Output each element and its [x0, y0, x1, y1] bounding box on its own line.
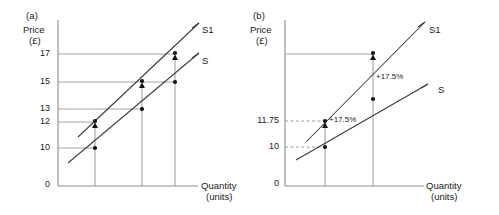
panel-b-leader-s: [421, 84, 428, 88]
panel-b-marker-s1-q2: [370, 51, 376, 60]
panel-b-marker-s-q2: [371, 97, 375, 101]
panel-a-marker-s-q2: [140, 107, 144, 111]
panel-a-curve-s: [68, 53, 199, 163]
panel-a-marker-s-q3: [173, 80, 177, 84]
panel-a: (a) Price (£) 17 15 13 12 10 0 S1 S Quan…: [0, 0, 250, 215]
panel-a-leader-s1: [192, 23, 199, 28]
panel-a-marker-s1-q2: [139, 79, 145, 88]
panel-a-plot: [0, 0, 250, 215]
panel-a-marker-s-q1: [93, 146, 97, 150]
panel-a-leader-s: [192, 53, 199, 58]
panel-b-curve-s: [296, 84, 428, 160]
panel-a-marker-s1-q3: [172, 51, 178, 60]
panel-b-curve-s1: [306, 22, 425, 142]
panel-b-plot: [228, 0, 499, 215]
supply-curve-figure: (a) Price (£) 17 15 13 12 10 0 S1 S Quan…: [0, 0, 499, 215]
panel-b: (b) Price (£) 11.75 10 0 S1 S +17.5% +17…: [228, 0, 499, 215]
panel-b-marker-s-q1: [323, 145, 327, 149]
